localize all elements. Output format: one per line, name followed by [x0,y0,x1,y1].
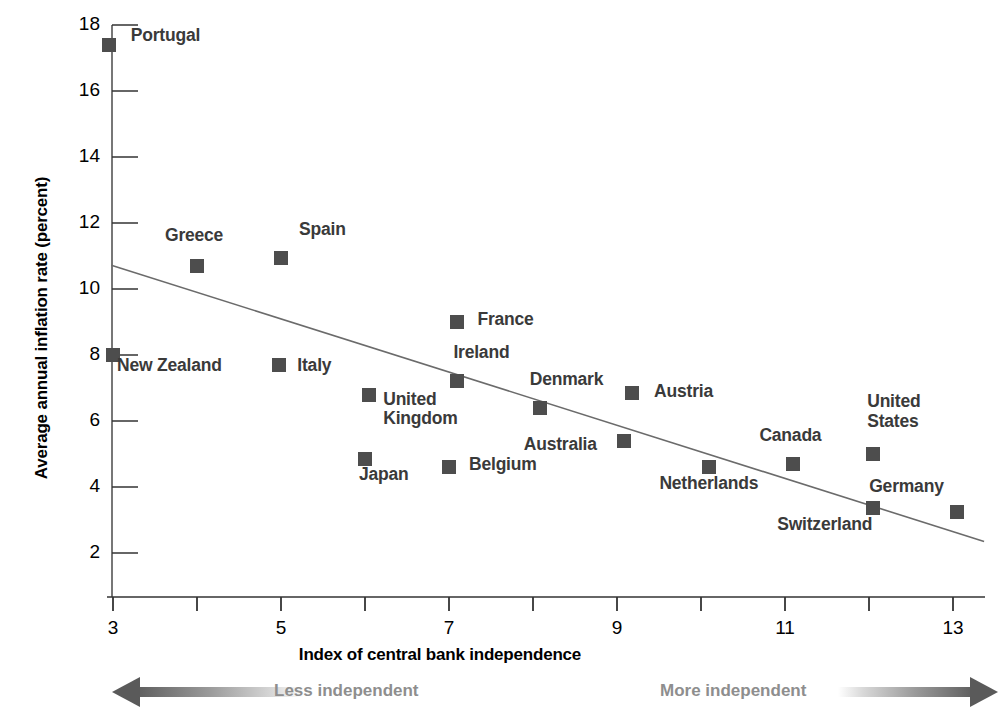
y-tick-label: 12 [64,211,100,233]
data-point-label: New Zealand [117,356,222,376]
y-tick-label: 14 [64,145,100,167]
y-tick-label: 8 [64,343,100,365]
data-point-marker[interactable] [450,374,464,388]
x-tick-label: 5 [266,617,296,639]
data-point-marker[interactable] [950,505,964,519]
data-point-label: Spain [299,220,346,240]
data-point-marker[interactable] [625,386,639,400]
x-tick-label: 3 [98,617,128,639]
y-tick-label: 16 [64,79,100,101]
data-point-marker[interactable] [702,460,716,474]
data-point-label: Denmark [530,370,604,390]
data-point-label: United Kingdom [383,390,457,430]
y-tick-label: 10 [64,277,100,299]
more-independent-label: More independent [660,681,806,701]
less-independent-label: Less independent [274,681,419,701]
data-point-marker[interactable] [362,388,376,402]
data-point-marker[interactable] [272,358,286,372]
x-tick-label: 13 [938,617,968,639]
data-point-label: Switzerland [777,515,872,535]
data-point-marker[interactable] [533,401,547,415]
data-point-label: Austria [654,382,713,402]
data-point-label: Belgium [469,455,537,475]
data-point-marker[interactable] [866,501,880,515]
x-tick-label: 9 [602,617,632,639]
data-point-label: Ireland [453,343,509,363]
data-point-label: Japan [359,465,409,485]
data-point-label: France [477,310,533,330]
data-point-marker[interactable] [190,259,204,273]
data-point-label: Portugal [131,26,200,46]
data-point-marker[interactable] [617,434,631,448]
data-point-marker[interactable] [274,251,288,265]
y-axis-title: Average annual inflation rate (percent) [32,118,52,538]
data-point-marker[interactable] [450,315,464,329]
data-point-label: Canada [759,426,821,446]
more-independent-arrow-shaft [838,687,978,697]
y-tick-label: 6 [64,409,100,431]
trendline-layer [111,265,984,541]
x-tick-label: 7 [434,617,464,639]
data-point-label: Germany [869,477,943,497]
data-point-label: Netherlands [659,474,758,494]
y-tick-label: 4 [64,475,100,497]
more-independent-arrow-head [970,677,998,707]
data-point-marker[interactable] [866,447,880,461]
data-point-marker[interactable] [786,457,800,471]
trend-line [111,265,984,541]
less-independent-arrow-head [112,677,140,707]
x-tick-label: 11 [770,617,800,639]
direction-arrows [112,677,998,707]
data-point-label: Italy [297,356,331,376]
data-point-marker[interactable] [442,460,456,474]
x-axis-title: Index of central bank independence [170,645,710,665]
data-point-label: Greece [165,226,223,246]
y-tick-label: 2 [64,541,100,563]
y-tick-label: 18 [64,13,100,35]
data-point-label: Australia [524,435,597,455]
data-point-label: United States [867,392,920,432]
data-point-marker[interactable] [102,38,116,52]
scatter-chart: 2468101214161835791113 PortugalGreeceSpa… [0,0,1008,722]
